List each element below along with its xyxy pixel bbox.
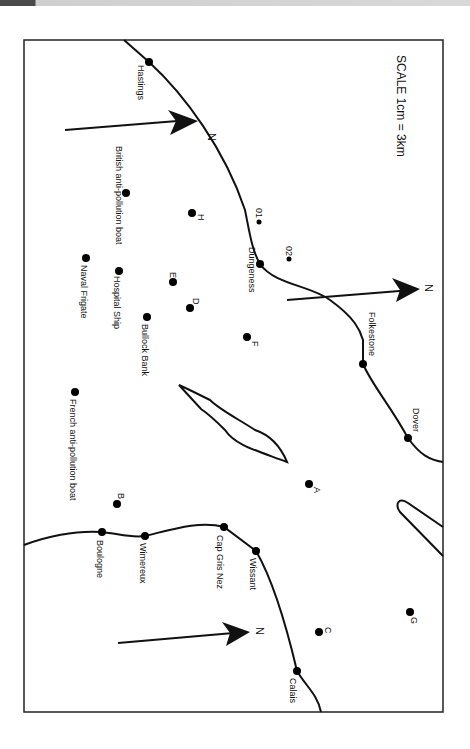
svg-text:02: 02 (284, 246, 294, 256)
svg-text:Calais: Calais (288, 678, 298, 704)
svg-text:Hastings: Hastings (136, 65, 146, 101)
svg-text:F: F (250, 341, 260, 347)
svg-text:Naval Frigate: Naval Frigate (79, 265, 89, 319)
channel-map: N N N SCALE 1cm = 3km Hastings Dungeness… (0, 0, 470, 749)
scale-label: SCALE 1cm = 3km (394, 55, 408, 157)
svg-text:Dover: Dover (411, 408, 421, 432)
svg-text:Cap Gris Nez: Cap Gris Nez (215, 535, 225, 590)
svg-text:Boulogne: Boulogne (95, 540, 105, 578)
svg-text:French anti-pollution boat: French anti-pollution boat (68, 399, 78, 501)
svg-text:Folkestone: Folkestone (367, 312, 377, 356)
svg-text:E: E (168, 272, 178, 278)
svg-text:N: N (423, 284, 435, 292)
svg-text:Dungeness: Dungeness (247, 247, 257, 293)
svg-text:D: D (191, 298, 201, 305)
svg-text:British anti-pollution boat: British anti-pollution boat (114, 146, 124, 245)
svg-text:H: H (196, 214, 206, 221)
point-hospital-ship: Hospital Ship (112, 267, 123, 329)
point-french-anti-pollution-boat: French anti-pollution boat (68, 388, 79, 501)
svg-text:N: N (206, 133, 218, 141)
svg-text:01: 01 (254, 208, 264, 218)
map-frame (24, 40, 443, 712)
svg-text:Wissant: Wissant (248, 558, 258, 591)
svg-text:Bullock Bank: Bullock Bank (140, 324, 150, 377)
svg-text:C: C (323, 627, 333, 634)
svg-text:A: A (312, 487, 322, 493)
svg-text:G: G (409, 617, 419, 624)
svg-text:N: N (254, 627, 266, 635)
svg-text:Wimereux: Wimereux (138, 543, 148, 584)
svg-text:Hospital Ship: Hospital Ship (112, 276, 122, 329)
svg-text:B: B (116, 493, 126, 499)
